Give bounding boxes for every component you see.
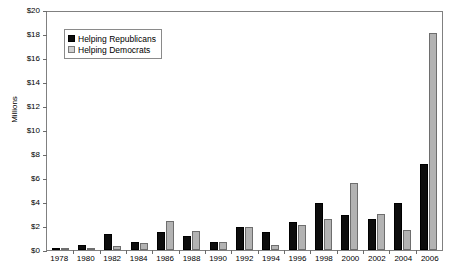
legend-swatch-icon-democrats bbox=[68, 46, 75, 53]
y-tick-label: $14 bbox=[27, 78, 40, 87]
bar-democrats bbox=[298, 225, 306, 250]
bar-democrats bbox=[140, 243, 148, 250]
bar-republicans bbox=[341, 215, 349, 250]
bar-chart: Millions $0$2$4$6$8$10$12$14$16$18$20 19… bbox=[0, 0, 454, 279]
bar-republicans bbox=[104, 234, 112, 250]
bar-republicans bbox=[368, 219, 376, 250]
x-axis-label: 1990 bbox=[205, 254, 231, 263]
bar-democrats bbox=[429, 33, 437, 250]
bar-democrats bbox=[245, 227, 253, 250]
x-axis-label: 1978 bbox=[46, 254, 72, 263]
x-axis-label: 2002 bbox=[364, 254, 390, 263]
x-axis-label: 1986 bbox=[152, 254, 178, 263]
bar-group bbox=[205, 12, 231, 250]
bar-republicans bbox=[394, 203, 402, 250]
bar-republicans bbox=[131, 242, 139, 250]
y-tick-label: $10 bbox=[27, 126, 40, 135]
y-tick-label: $16 bbox=[27, 54, 40, 63]
x-axis-label: 1982 bbox=[99, 254, 125, 263]
bar-group bbox=[310, 12, 336, 250]
bar-democrats bbox=[350, 183, 358, 250]
x-axis-label: 1988 bbox=[178, 254, 204, 263]
bar-democrats bbox=[87, 248, 95, 250]
y-tick-label: $8 bbox=[31, 150, 40, 159]
y-tick-label: $12 bbox=[27, 102, 40, 111]
bar-group bbox=[284, 12, 310, 250]
bar-democrats bbox=[192, 231, 200, 250]
bar-democrats bbox=[219, 242, 227, 250]
bar-democrats bbox=[403, 230, 411, 250]
legend-item-helping-republicans: Helping Republicans bbox=[68, 33, 156, 44]
bar-democrats bbox=[377, 214, 385, 250]
y-tick-label: $18 bbox=[27, 30, 40, 39]
bar-group bbox=[363, 12, 389, 250]
chart-legend: Helping Republicans Helping Democrats bbox=[64, 29, 162, 59]
x-axis-label: 1984 bbox=[125, 254, 151, 263]
bar-republicans bbox=[262, 232, 270, 250]
x-axis-label: 1980 bbox=[72, 254, 98, 263]
bar-democrats bbox=[61, 248, 69, 250]
x-axis-label: 2006 bbox=[417, 254, 443, 263]
bar-republicans bbox=[420, 164, 428, 250]
y-tick-mark bbox=[43, 251, 47, 252]
bar-republicans bbox=[210, 242, 218, 250]
y-axis-title: Millions bbox=[10, 70, 19, 150]
bar-republicans bbox=[289, 222, 297, 250]
y-tick-label: $0 bbox=[31, 246, 40, 255]
bar-group bbox=[258, 12, 284, 250]
x-axis-label: 1992 bbox=[231, 254, 257, 263]
x-axis-label: 1994 bbox=[258, 254, 284, 263]
bar-republicans bbox=[157, 232, 165, 250]
bar-democrats bbox=[113, 246, 121, 250]
x-axis-label: 2000 bbox=[337, 254, 363, 263]
y-tick-label: $6 bbox=[31, 174, 40, 183]
bar-democrats bbox=[271, 245, 279, 250]
bar-group bbox=[231, 12, 257, 250]
bar-group bbox=[389, 12, 415, 250]
bar-republicans bbox=[236, 227, 244, 250]
x-axis-label: 1996 bbox=[284, 254, 310, 263]
x-axis-label: 2004 bbox=[390, 254, 416, 263]
bar-republicans bbox=[315, 203, 323, 250]
bar-republicans bbox=[78, 245, 86, 250]
legend-item-helping-democrats: Helping Democrats bbox=[68, 44, 156, 55]
legend-label-republicans: Helping Republicans bbox=[78, 34, 156, 44]
x-axis-label: 1998 bbox=[311, 254, 337, 263]
bar-group bbox=[416, 12, 442, 250]
bar-republicans bbox=[183, 236, 191, 250]
y-tick-label: $2 bbox=[31, 222, 40, 231]
legend-swatch-icon-republicans bbox=[68, 35, 75, 42]
legend-label-democrats: Helping Democrats bbox=[78, 45, 150, 55]
x-axis-labels: 1978198019821984198619881990199219941996… bbox=[46, 254, 443, 263]
bar-group bbox=[337, 12, 363, 250]
bar-democrats bbox=[166, 221, 174, 250]
y-tick-label: $4 bbox=[31, 198, 40, 207]
bar-republicans bbox=[52, 248, 60, 250]
y-tick-label: $20 bbox=[27, 6, 40, 15]
bar-group bbox=[179, 12, 205, 250]
bar-democrats bbox=[324, 219, 332, 250]
